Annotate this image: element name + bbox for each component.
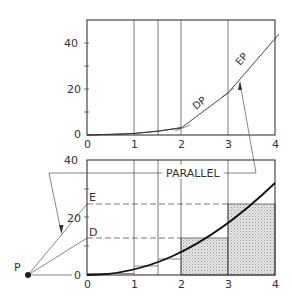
bottom-x-tick-2: 2 [178, 278, 185, 291]
top-x-tick-0: 0 [84, 138, 91, 151]
pole-point [25, 272, 31, 278]
parallel-label: PARALLEL [166, 167, 220, 180]
parallel-leader-left [49, 173, 162, 234]
e-label: E [89, 191, 96, 204]
bottom-x-tick-3: 3 [225, 278, 232, 291]
bottom-y-tick-40: 40 [64, 154, 78, 167]
bottom-x-tick-0: 0 [84, 278, 91, 291]
top-x-tick-1: 1 [131, 138, 138, 151]
d-label: D [89, 226, 97, 239]
top-y-tick-40: 40 [64, 37, 78, 50]
shaded-area-2-3 [181, 238, 228, 275]
bottom-y-tick-0: 0 [74, 269, 81, 282]
top-x-tick-4: 4 [272, 138, 279, 151]
dp-label: DP [190, 94, 208, 111]
top-x-tick-2: 2 [178, 138, 185, 151]
top-graph: 40 20 0 0 1 2 3 4 DP EP [64, 20, 279, 151]
bottom-x-tick-1: 1 [131, 278, 138, 291]
top-y-tick-0: 0 [74, 128, 81, 141]
p-label: P [14, 261, 21, 274]
parallel-leader-right [224, 81, 256, 173]
integral-curve [87, 34, 279, 135]
bottom-x-tick-4: 4 [272, 278, 279, 291]
shaded-area-3-4 [228, 204, 275, 275]
top-x-tick-3: 3 [225, 138, 232, 151]
arrow-head-icon [238, 81, 242, 90]
ep-label: EP [233, 51, 249, 68]
top-y-tick-20: 20 [67, 83, 81, 96]
graphical-integration-diagram: 40 20 0 0 1 2 3 4 DP EP [0, 0, 292, 303]
